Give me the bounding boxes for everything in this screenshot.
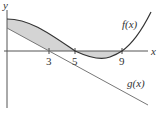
tick-label-5: 5	[72, 55, 78, 67]
y-axis-label: y	[2, 0, 8, 11]
tick-label-3: 3	[46, 55, 52, 67]
tick-label-9: 9	[119, 55, 125, 67]
g-line-label: g(x)	[127, 77, 145, 90]
f-curve-label: f(x)	[122, 18, 138, 31]
graph: y x 3 5 9 f(x) g(x)	[0, 0, 162, 114]
g-line	[7, 28, 148, 105]
x-axis-label: x	[150, 45, 156, 57]
shaded-region	[7, 19, 122, 59]
